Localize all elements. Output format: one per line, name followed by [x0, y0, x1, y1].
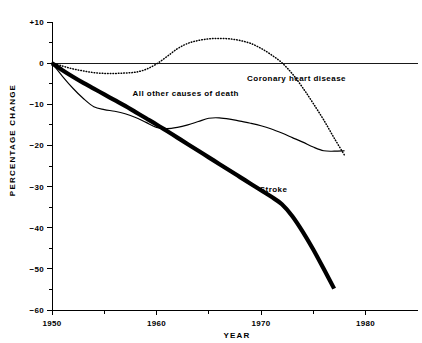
y-tick-group [47, 22, 52, 310]
y-tick-label: −10 [30, 100, 45, 109]
y-tick-label: −40 [30, 224, 45, 233]
y-tick-label: +10 [30, 18, 45, 27]
annotation-all-other-causes-of-death: All other causes of death [133, 89, 239, 98]
x-tick-label: 1980 [356, 319, 375, 328]
x-tick-label-group: 1950196019701980 [43, 319, 376, 328]
x-tick-label: 1970 [252, 319, 271, 328]
y-tick-label: −20 [30, 141, 45, 150]
chart-plot-area: +100−10−20−30−40−50−60 1950196019701980 … [0, 0, 422, 343]
y-axis-title: PERCENTAGE CHANGE [8, 84, 17, 196]
chart-figure: +100−10−20−30−40−50−60 1950196019701980 … [0, 0, 422, 343]
y-tick-label: −60 [30, 306, 45, 315]
x-tick-label: 1960 [147, 319, 166, 328]
y-tick-label: 0 [39, 59, 44, 68]
x-tick-label: 1950 [43, 319, 62, 328]
x-axis-title: YEAR [223, 331, 250, 340]
x-tick-group [52, 310, 366, 315]
y-tick-label-group: +100−10−20−30−40−50−60 [30, 18, 45, 315]
annotation-coronary-heart-disease: Coronary heart disease [247, 74, 346, 83]
y-tick-label: −50 [30, 265, 45, 274]
y-tick-label: −30 [30, 183, 45, 192]
annotation-stroke: Stroke [260, 185, 288, 194]
